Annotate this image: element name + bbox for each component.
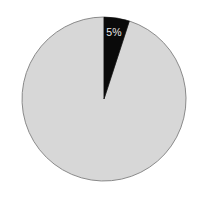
- pie-chart-figure: 5%: [0, 0, 200, 197]
- pie-chart-svg: 5%: [0, 0, 200, 197]
- pie-slice-value-label: 5%: [106, 26, 122, 38]
